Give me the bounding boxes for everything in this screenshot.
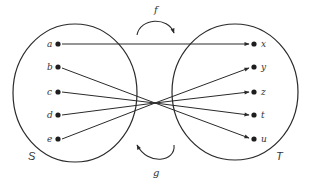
element-label-y: y — [260, 62, 267, 72]
element-dot-x — [251, 41, 256, 46]
element-dot-d — [55, 112, 60, 117]
element-dot-a — [55, 41, 60, 46]
element-label-u: u — [261, 134, 267, 144]
function-label-f: f — [153, 4, 160, 15]
edge-crossing-u — [155, 103, 249, 138]
element-dot-t — [251, 112, 256, 117]
element-dot-c — [55, 89, 60, 94]
element-dot-b — [55, 64, 60, 69]
element-label-t: t — [261, 110, 265, 120]
set-label-s: S — [28, 150, 36, 162]
element-label-b: b — [47, 62, 53, 72]
function-f-arrow — [137, 21, 174, 35]
element-label-z: z — [260, 87, 266, 97]
element-label-x: x — [261, 39, 266, 49]
element-label-e: e — [47, 134, 52, 144]
element-dot-e — [55, 136, 60, 141]
element-dot-u — [251, 136, 256, 141]
function-g-arrow — [137, 145, 174, 159]
function-mapping-diagram: a b c d e x y z t u S T f g — [0, 0, 310, 181]
edge-d-crossing — [62, 103, 155, 115]
set-label-t: T — [276, 150, 284, 162]
set-s-outline — [13, 24, 137, 162]
function-label-g: g — [153, 167, 159, 178]
element-label-d: d — [47, 110, 53, 120]
edge-e-crossing — [62, 103, 155, 139]
edge-crossing-t — [155, 103, 249, 115]
element-dot-z — [251, 89, 256, 94]
element-dot-y — [251, 64, 256, 69]
element-label-c: c — [47, 87, 52, 97]
element-label-a: a — [47, 39, 52, 49]
